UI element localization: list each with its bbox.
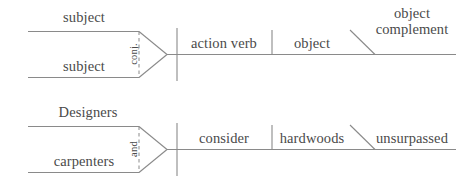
sentence-diagram-figure: subject subject conj. action verb object… — [0, 0, 458, 191]
bottom-subject-lower-label: carpenters — [54, 153, 115, 169]
top-verb-label: action verb — [191, 35, 257, 51]
top-object-complement-line2: complement — [376, 21, 449, 37]
bottom-subject-upper-label: Designers — [59, 104, 118, 120]
bottom-verb-label: consider — [199, 130, 249, 146]
bottom-object-complement-slant — [350, 125, 375, 150]
bottom-converge-arm-upper — [139, 127, 167, 150]
top-object-label: object — [294, 35, 330, 51]
bottom-object-label: hardwoods — [280, 130, 345, 146]
top-converge-arm-lower — [139, 55, 167, 78]
top-object-complement-line1: object — [376, 5, 449, 21]
top-object-complement-slant — [350, 30, 375, 55]
top-object-complement-label: object complement — [376, 5, 449, 37]
bottom-converge-arm-lower — [139, 150, 167, 173]
top-conjunction-label: conj. — [128, 43, 139, 65]
bottom-conjunction-label: and — [128, 141, 139, 157]
top-converge-arm-upper — [139, 32, 167, 55]
bottom-object-complement-line1: unsurpassed — [376, 130, 448, 146]
top-subject-upper-label: subject — [63, 9, 105, 25]
bottom-object-complement-label: unsurpassed — [376, 130, 448, 146]
top-subject-lower-label: subject — [63, 58, 105, 74]
